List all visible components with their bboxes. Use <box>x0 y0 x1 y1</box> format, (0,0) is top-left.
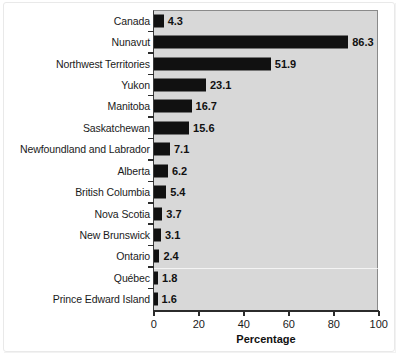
x-axis-line <box>153 310 379 312</box>
bar-row: Ontario2.4 <box>0 246 401 267</box>
bar-row: Manitoba16.7 <box>0 96 401 117</box>
bar <box>154 143 170 156</box>
bar-with-value: 5.4 <box>154 186 185 199</box>
y-axis-tick <box>148 74 154 76</box>
bar <box>154 207 162 220</box>
bar-value-label: 4.3 <box>168 15 183 26</box>
bar <box>154 36 348 49</box>
category-label: Nova Scotia <box>94 208 150 220</box>
x-axis-tick <box>378 311 380 316</box>
bar-with-value: 7.1 <box>154 143 189 156</box>
bar-row: Northwest Territories51.9 <box>0 53 401 74</box>
bar <box>154 14 164 27</box>
bar-row: Saskatchewan15.6 <box>0 117 401 138</box>
category-label: Nunavut <box>112 36 150 48</box>
bar-row: Alberta6.2 <box>0 160 401 181</box>
bar-value-label: 23.1 <box>210 79 231 90</box>
y-axis-tick <box>148 52 154 54</box>
bar <box>154 100 192 113</box>
bar-value-label: 5.4 <box>170 187 185 198</box>
x-axis-tick-label: 60 <box>283 318 295 330</box>
category-label: Alberta <box>117 165 150 177</box>
x-axis-tick-label: 20 <box>193 318 205 330</box>
bar <box>154 271 158 284</box>
x-axis-tick-label: 40 <box>238 318 250 330</box>
bar-with-value: 3.1 <box>154 228 180 241</box>
bar-chart-figure: Canada4.3Nunavut86.3Northwest Territorie… <box>0 0 401 361</box>
y-axis-tick <box>148 266 154 268</box>
bar-value-label: 51.9 <box>275 58 296 69</box>
y-axis-tick <box>148 223 154 225</box>
bar <box>154 186 166 199</box>
category-label: British Columbia <box>75 186 150 198</box>
y-axis-tick <box>148 159 154 161</box>
x-axis-tick <box>288 311 290 316</box>
y-axis-tick <box>148 138 154 140</box>
y-axis-tick <box>148 202 154 204</box>
bar-with-value: 3.7 <box>154 207 182 220</box>
category-label: Prince Edward Island <box>53 293 150 305</box>
bar-with-value: 16.7 <box>154 100 217 113</box>
bar <box>154 78 206 91</box>
bar-value-label: 2.4 <box>163 251 178 262</box>
x-axis-tick <box>333 311 335 316</box>
x-axis-title: Percentage <box>153 333 379 345</box>
x-axis-tick <box>153 311 155 316</box>
bar-with-value: 2.4 <box>154 250 179 263</box>
bar-with-value: 6.2 <box>154 164 187 177</box>
y-axis-tick <box>148 116 154 118</box>
y-axis-tick <box>148 31 154 33</box>
x-axis-tick-label: 80 <box>328 318 340 330</box>
bar-value-label: 16.7 <box>196 101 217 112</box>
y-axis-tick <box>148 95 154 97</box>
bar <box>154 164 168 177</box>
bar-value-label: 86.3 <box>352 37 373 48</box>
y-axis-tick <box>148 181 154 183</box>
bar-row: Canada4.3 <box>0 10 401 31</box>
bar-row: Nunavut86.3 <box>0 31 401 52</box>
bar-row: Québec1.8 <box>0 267 401 288</box>
category-label: Manitoba <box>108 100 150 112</box>
bar <box>154 250 159 263</box>
bar-value-label: 1.8 <box>162 272 177 283</box>
bar-value-label: 7.1 <box>174 144 189 155</box>
x-axis-tick-label: 100 <box>370 318 388 330</box>
bar-with-value: 1.6 <box>154 293 177 306</box>
bar <box>154 293 158 306</box>
bar-with-value: 51.9 <box>154 57 296 70</box>
bar-with-value: 86.3 <box>154 36 374 49</box>
bar-with-value: 4.3 <box>154 14 183 27</box>
x-axis-tick-label: 0 <box>151 318 157 330</box>
category-label: Ontario <box>116 250 150 262</box>
bar-value-label: 3.7 <box>166 208 181 219</box>
category-label: Newfoundland and Labrador <box>20 143 150 155</box>
x-axis-tick <box>198 311 200 316</box>
category-label: Northwest Territories <box>56 58 150 70</box>
bar <box>154 57 271 70</box>
category-label: New Brunswick <box>80 229 150 241</box>
category-label: Canada <box>114 15 150 27</box>
bar <box>154 228 161 241</box>
bar-row: Newfoundland and Labrador7.1 <box>0 139 401 160</box>
bar-row: Yukon23.1 <box>0 74 401 95</box>
bar-row: British Columbia5.4 <box>0 181 401 202</box>
y-axis-tick <box>148 245 154 247</box>
bar <box>154 121 189 134</box>
category-label: Saskatchewan <box>83 122 150 134</box>
bar-row: New Brunswick3.1 <box>0 224 401 245</box>
bar-rows-container: Canada4.3Nunavut86.3Northwest Territorie… <box>0 10 401 310</box>
bar-with-value: 23.1 <box>154 78 231 91</box>
bar-value-label: 3.1 <box>165 229 180 240</box>
bar-value-label: 15.6 <box>193 122 214 133</box>
category-label: Yukon <box>121 79 150 91</box>
x-axis-tick <box>243 311 245 316</box>
bar-row: Nova Scotia3.7 <box>0 203 401 224</box>
bar-row: Prince Edward Island1.6 <box>0 288 401 309</box>
bar-with-value: 15.6 <box>154 121 215 134</box>
bar-value-label: 6.2 <box>172 165 187 176</box>
bar-value-label: 1.6 <box>162 294 177 305</box>
y-axis-tick <box>148 288 154 290</box>
bar-with-value: 1.8 <box>154 271 177 284</box>
category-label: Québec <box>114 272 150 284</box>
